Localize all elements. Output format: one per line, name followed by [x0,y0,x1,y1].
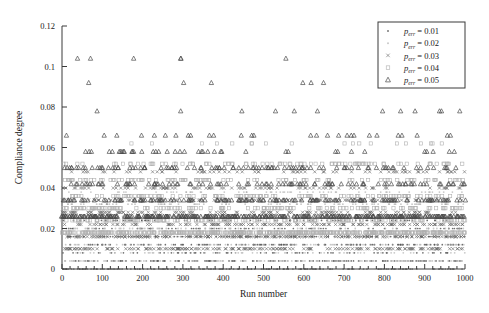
data-point [404,247,407,250]
data-point [215,211,218,214]
data-point [144,186,147,189]
series-0-04 [61,142,467,234]
data-point [96,247,99,250]
data-point [227,162,230,165]
data-point [248,244,250,246]
data-point [131,56,135,60]
data-point [310,203,312,205]
data-point [431,165,435,169]
data-point [256,223,259,226]
data-point [231,247,234,250]
data-point [286,207,289,210]
data-point [277,268,279,270]
data-point [252,228,254,230]
data-point [362,203,364,205]
data-point [335,191,337,193]
data-point [408,244,410,246]
data-point [114,252,116,254]
data-point [166,219,169,222]
data-point [362,244,364,246]
data-point [264,252,266,254]
data-point [351,142,354,145]
data-point [392,207,395,210]
data-point [296,244,298,246]
data-point [215,195,218,198]
data-point [72,252,74,254]
data-point [99,223,102,226]
data-point [394,170,397,173]
data-point [230,228,232,230]
data-point [212,149,216,153]
data-point [463,198,467,202]
data-point [191,211,194,214]
data-point [381,223,384,226]
data-point [179,109,183,113]
data-point [293,178,296,181]
data-point [440,260,442,262]
data-point [138,260,140,262]
data-point [413,223,416,226]
data-point [458,228,460,230]
data-point [315,109,319,113]
data-point [260,211,263,214]
data-point [214,260,216,262]
data-point [270,207,273,210]
data-point [246,191,248,193]
data-point [128,199,131,202]
data-point [445,203,447,205]
data-point [388,244,390,246]
data-point [86,211,89,214]
data-point [429,244,431,246]
data-point [318,186,321,189]
data-point [404,142,407,145]
data-point [462,203,464,205]
data-point [103,244,105,246]
data-point [106,231,109,234]
data-point [425,170,428,173]
data-point [290,191,292,193]
data-point [450,211,453,214]
data-point [426,228,428,230]
data-point [93,178,96,181]
data-point [76,228,78,230]
data-point [199,207,202,210]
data-point [173,149,177,153]
data-point [208,170,211,173]
data-point [347,247,350,250]
data-point [452,191,454,193]
data-point [123,252,125,254]
x-tick-label: 700 [338,273,351,283]
data-point [305,228,307,230]
data-point [353,186,356,189]
data-point [142,228,144,230]
data-point [400,260,402,262]
data-point [154,186,157,189]
data-point [207,133,211,137]
data-point [332,211,335,214]
data-point [462,219,465,222]
data-point [349,149,353,153]
data-point [364,170,367,173]
data-point [193,268,195,270]
data-point [429,162,432,165]
data-point [253,260,255,262]
data-point [193,260,195,262]
data-point [155,207,158,210]
data-point [296,223,299,226]
data-point [393,223,396,226]
data-point [77,231,80,234]
data-point [161,170,164,173]
data-point [292,268,294,270]
data-point [112,236,114,238]
data-point [309,162,312,165]
data-point [223,191,225,193]
data-point [322,268,324,270]
data-point [327,252,329,254]
data-point [265,191,267,193]
data-point [390,195,393,198]
chart-legend[interactable]: perr = 0.01perr = 0.02perr = 0.03perr = … [378,22,465,88]
data-point [421,260,423,262]
data-point [376,223,379,226]
data-point [90,191,92,193]
data-point [96,203,98,205]
